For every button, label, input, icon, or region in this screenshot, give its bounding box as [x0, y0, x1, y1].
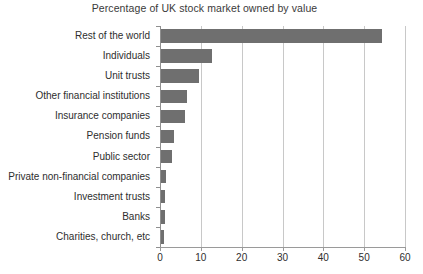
x-tick-label: 60: [399, 252, 410, 264]
y-tick: [156, 126, 160, 127]
category-label: Private non-financial companies: [0, 167, 155, 187]
bar-row: [160, 207, 405, 227]
bar-row: [160, 26, 405, 46]
bar: [161, 170, 166, 183]
x-tick: [323, 247, 324, 251]
y-tick: [156, 167, 160, 168]
bar-row: [160, 86, 405, 106]
category-label: Investment trusts: [0, 187, 155, 207]
y-tick: [156, 86, 160, 87]
x-tick: [160, 247, 161, 251]
bar: [161, 230, 164, 243]
y-tick: [156, 26, 160, 27]
y-tick: [156, 227, 160, 228]
category-label: Public sector: [0, 147, 155, 167]
bar: [161, 90, 187, 103]
bar-row: [160, 227, 405, 247]
category-label: Rest of the world: [0, 26, 155, 46]
y-tick: [156, 187, 160, 188]
x-tick-label: 40: [318, 252, 329, 264]
y-tick: [156, 46, 160, 47]
y-tick: [156, 66, 160, 67]
category-label: Pension funds: [0, 126, 155, 146]
bar: [161, 29, 382, 42]
y-tick: [156, 247, 160, 248]
bar: [161, 110, 185, 123]
x-tick: [242, 247, 243, 251]
bar: [161, 49, 212, 62]
category-label: Banks: [0, 207, 155, 227]
category-label: Other financial institutions: [0, 86, 155, 106]
bar-row: [160, 126, 405, 146]
bar-row: [160, 187, 405, 207]
category-label: Charities, church, etc: [0, 227, 155, 247]
plot-area: [160, 26, 405, 247]
x-tick-label: 20: [236, 252, 247, 264]
category-label: Individuals: [0, 46, 155, 66]
x-tick: [405, 247, 406, 251]
bar: [161, 130, 174, 143]
x-tick: [201, 247, 202, 251]
category-label: Insurance companies: [0, 106, 155, 126]
x-tick-label: 50: [359, 252, 370, 264]
y-tick: [156, 207, 160, 208]
x-tick: [364, 247, 365, 251]
bar-row: [160, 66, 405, 86]
bar-chart: Percentage of UK stock market owned by v…: [0, 0, 423, 274]
x-tick: [283, 247, 284, 251]
bar-row: [160, 46, 405, 66]
category-axis: Rest of the worldIndividualsUnit trustsO…: [0, 26, 155, 247]
bar: [161, 150, 172, 163]
gridline-60: [405, 26, 406, 247]
x-tick-label: 30: [277, 252, 288, 264]
y-tick: [156, 147, 160, 148]
bars-group: [160, 26, 405, 247]
bar: [161, 69, 199, 82]
x-tick-label: 10: [195, 252, 206, 264]
bar-row: [160, 147, 405, 167]
bar: [161, 210, 165, 223]
bar: [161, 190, 165, 203]
bar-row: [160, 167, 405, 187]
bar-row: [160, 106, 405, 126]
chart-title: Percentage of UK stock market owned by v…: [0, 2, 409, 14]
x-tick-label: 0: [157, 252, 163, 264]
y-tick: [156, 106, 160, 107]
category-label: Unit trusts: [0, 66, 155, 86]
